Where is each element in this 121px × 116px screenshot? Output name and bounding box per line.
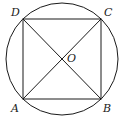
vertex-label-d: D — [10, 6, 20, 19]
vertex-label-b: B — [102, 102, 111, 115]
center-label-o: O — [67, 52, 76, 65]
geometry-diagram: D C O A B — [0, 0, 121, 116]
vertex-label-a: A — [10, 102, 19, 115]
vertex-label-c: C — [104, 6, 113, 19]
